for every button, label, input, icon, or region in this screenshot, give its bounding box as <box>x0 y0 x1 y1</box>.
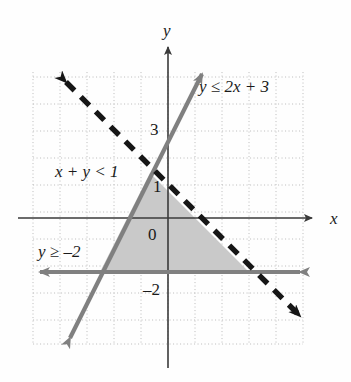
boundary-line-x-plus-y-equals-1 <box>66 82 300 316</box>
tick-label-1: 1 <box>153 178 162 195</box>
annotation-y-ge-neg2: y ≥ –2 <box>38 243 80 260</box>
graph-canvas <box>0 0 351 382</box>
tick-label-0: 0 <box>148 226 157 243</box>
tick-label-3: 3 <box>150 121 159 138</box>
tick-label-neg2: –2 <box>143 281 160 298</box>
inequality-graph-figure: y x 3 1 0 –2 y ≤ 2x + 3 x + y < 1 y ≥ –2 <box>0 0 351 382</box>
y-axis-label: y <box>163 22 171 39</box>
x-axis-label: x <box>330 210 338 227</box>
annotation-y-le-2x-plus-3: y ≤ 2x + 3 <box>199 78 269 95</box>
annotation-x-plus-y-lt-1: x + y < 1 <box>55 163 119 180</box>
